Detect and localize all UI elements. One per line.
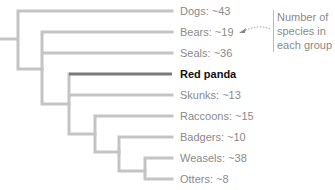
leaf-bears: Bears: ~19 — [180, 26, 234, 39]
annotation-line-1: Number of — [277, 10, 332, 24]
leaf-skunks: Skunks: ~13 — [180, 89, 241, 102]
leaf-badgers: Badgers: ~10 — [180, 131, 246, 144]
leaf-seals: Seals: ~36 — [180, 47, 232, 60]
leaf-dogs: Dogs: ~43 — [180, 5, 230, 18]
leaf-red-panda: Red panda — [180, 68, 236, 81]
annotation-line-3: each group — [277, 38, 332, 52]
leaf-weasels: Weasels: ~38 — [180, 152, 247, 165]
annotation-line-2: species in — [277, 24, 332, 38]
leaf-raccoons: Raccoons: ~15 — [180, 110, 254, 123]
annotation-note: Number of species in each group — [273, 10, 332, 52]
leaf-otters: Otters: ~8 — [180, 173, 229, 186]
